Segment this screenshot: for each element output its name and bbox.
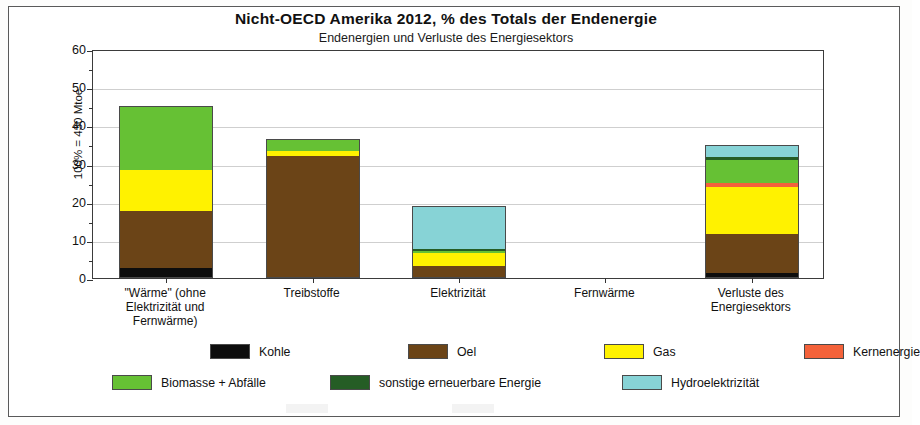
legend-item-kernenergie: Kernenergie bbox=[804, 344, 920, 359]
legend-item-biomasse-abfälle: Biomasse + Abfälle bbox=[112, 375, 266, 390]
plot-area bbox=[92, 50, 824, 279]
x-axis-label-2: Treibstoffe bbox=[232, 286, 392, 300]
x-axis-label-line: Fernwärme) bbox=[85, 314, 245, 328]
y-axis-minor-tick bbox=[89, 185, 93, 186]
x-axis-label-line: Fernwärme bbox=[524, 286, 684, 300]
y-axis-minor-tick bbox=[89, 108, 93, 109]
bar-segment-kernenergie bbox=[705, 183, 799, 187]
y-axis-minor-tick bbox=[89, 146, 93, 147]
bar-segment-oel bbox=[119, 211, 213, 268]
bar-segment-oel bbox=[412, 266, 506, 278]
chart-legend: KohleOelGasKernenergieBiomasse + Abfälle… bbox=[92, 344, 852, 406]
plot-inner bbox=[93, 51, 823, 278]
bar-column bbox=[412, 206, 506, 278]
x-axis-labels: "Wärme" (ohneElektrizität undFernwärme)T… bbox=[92, 286, 824, 342]
x-axis-tick bbox=[459, 278, 460, 283]
bar-column bbox=[705, 145, 799, 278]
bar-segment-sonstige-erneuerbare-energie bbox=[412, 249, 506, 251]
y-axis-tick-label: 0 bbox=[46, 272, 86, 286]
legend-label: Gas bbox=[653, 345, 676, 359]
bar-segment-biomasse-abfälle bbox=[412, 251, 506, 253]
legend-swatch bbox=[804, 344, 844, 359]
y-axis-tick bbox=[87, 51, 93, 52]
bar-segment-biomasse-abfälle bbox=[705, 160, 799, 183]
x-axis-label-line: Treibstoffe bbox=[232, 286, 392, 300]
legend-swatch bbox=[210, 344, 250, 359]
bar-segment-gas bbox=[412, 253, 506, 266]
x-axis-tick bbox=[313, 278, 314, 283]
y-axis-minor-tick bbox=[89, 261, 93, 262]
y-axis-tick bbox=[87, 280, 93, 281]
bar-segment-biomasse-abfälle bbox=[266, 139, 360, 151]
x-axis-label-4: Fernwärme bbox=[524, 286, 684, 300]
x-axis-tick bbox=[605, 278, 606, 283]
legend-label: sonstige erneuerbare Energie bbox=[379, 376, 541, 390]
bar-column bbox=[119, 106, 213, 279]
y-axis-minor-tick bbox=[89, 70, 93, 71]
bar-segment-kohle bbox=[705, 273, 799, 278]
legend-swatch bbox=[604, 344, 644, 359]
legend-item-hydroelektrizität: Hydroelektrizität bbox=[622, 375, 759, 390]
legend-swatch bbox=[112, 375, 152, 390]
y-axis-tick bbox=[87, 204, 93, 205]
gridline bbox=[93, 89, 823, 90]
legend-swatch bbox=[330, 375, 370, 390]
y-axis-tick bbox=[87, 166, 93, 167]
bar-segment-hydroelektrizität bbox=[705, 145, 799, 157]
x-axis-label-3: Elektrizität bbox=[378, 286, 538, 300]
y-axis-minor-tick bbox=[89, 223, 93, 224]
x-axis-tick bbox=[166, 278, 167, 283]
legend-item-sonstige-erneuerbare-energie: sonstige erneuerbare Energie bbox=[330, 375, 541, 390]
bar-segment-sonstige-erneuerbare-energie bbox=[705, 157, 799, 160]
bar-segment-gas bbox=[266, 151, 360, 156]
bar-segment-hydroelektrizität bbox=[412, 206, 506, 249]
bar-segment-oel bbox=[266, 156, 360, 278]
legend-swatch bbox=[622, 375, 662, 390]
legend-label: Hydroelektrizität bbox=[671, 376, 759, 390]
legend-item-kohle: Kohle bbox=[210, 344, 290, 359]
x-axis-label-line: "Wärme" (ohne bbox=[85, 286, 245, 300]
legend-label: Oel bbox=[457, 345, 476, 359]
y-axis-tick bbox=[87, 89, 93, 90]
y-axis-tick-label: 10 bbox=[46, 234, 86, 248]
bar-segment-gas bbox=[119, 170, 213, 211]
x-axis-tick bbox=[752, 278, 753, 283]
bar-column bbox=[266, 139, 360, 278]
legend-item-gas: Gas bbox=[604, 344, 676, 359]
chart-title: Nicht-OECD Amerika 2012, % des Totals de… bbox=[0, 10, 892, 28]
x-axis-label-5: Verluste desEnergiesektors bbox=[671, 286, 831, 314]
x-axis-label-line: Energiesektors bbox=[671, 300, 831, 314]
chart-subtitle: Endenergien und Verluste des Energiesekt… bbox=[0, 31, 892, 45]
bar-segment-biomasse-abfälle bbox=[119, 106, 213, 171]
x-axis-label-line: Elektrizität bbox=[378, 286, 538, 300]
x-axis-label-line: Verluste des bbox=[671, 286, 831, 300]
y-axis-tick bbox=[87, 127, 93, 128]
legend-label: Kohle bbox=[259, 345, 290, 359]
legend-item-oel: Oel bbox=[408, 344, 476, 359]
bar-segment-gas bbox=[705, 187, 799, 234]
y-axis-title: 100% = 430 Mtoe bbox=[72, 54, 84, 214]
x-axis-label-1: "Wärme" (ohneElektrizität undFernwärme) bbox=[85, 286, 245, 328]
bar-segment-kohle bbox=[119, 268, 213, 278]
legend-label: Biomasse + Abfälle bbox=[161, 376, 266, 390]
y-axis-tick bbox=[87, 242, 93, 243]
x-axis-label-line: Elektrizität und bbox=[85, 300, 245, 314]
legend-swatch bbox=[408, 344, 448, 359]
legend-label: Kernenergie bbox=[853, 345, 920, 359]
bar-segment-oel bbox=[705, 234, 799, 273]
